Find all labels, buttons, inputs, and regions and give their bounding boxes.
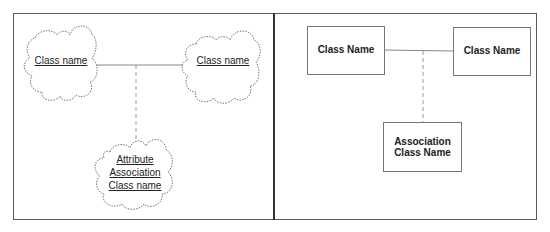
- cloud-class-b[interactable]: [182, 31, 260, 103]
- association-line-right: [384, 50, 453, 51]
- association-class-box-label: Association Class Name: [394, 136, 451, 158]
- association-class-box[interactable]: Association Class Name: [383, 122, 462, 172]
- cloud-association-class-label: Attribute Association Class name: [109, 153, 162, 192]
- class-box-b[interactable]: Class Name: [453, 27, 531, 76]
- association-class-line-2: Association: [109, 166, 162, 179]
- class-box-b-label: Class Name: [464, 45, 521, 56]
- cloud-class-a-label: Class name: [35, 54, 88, 67]
- association-class-line-1: Attribute: [109, 153, 162, 166]
- association-class-line-3: Class name: [109, 179, 162, 192]
- class-box-a-label: Class Name: [318, 44, 375, 55]
- class-box-a[interactable]: Class Name: [307, 26, 385, 75]
- cloud-class-b-label: Class name: [197, 54, 250, 67]
